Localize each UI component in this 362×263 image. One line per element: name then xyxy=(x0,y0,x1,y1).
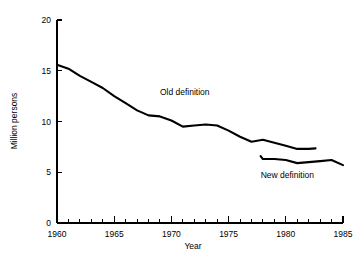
x-axis-tick-label: 1980 xyxy=(276,229,295,239)
y-axis-tick-label: 0 xyxy=(46,218,51,228)
x-axis-tick-label: 1975 xyxy=(219,229,238,239)
x-axis-title: Year xyxy=(184,241,201,251)
x-axis-tick-label: 1970 xyxy=(162,229,181,239)
y-axis-ticks xyxy=(57,20,62,223)
series-annotations-group: Old definitionNew definition xyxy=(160,87,314,180)
y-axis-tick-label: 10 xyxy=(42,117,52,127)
series-annotation-new-definition: New definition xyxy=(261,170,315,180)
axes-group xyxy=(57,20,343,223)
series-annotation-old-definition: Old definition xyxy=(160,87,210,97)
y-axis-tick-label: 20 xyxy=(42,15,52,25)
y-axis-tick-label: 15 xyxy=(42,66,52,76)
x-axis-tick-labels: 196019651970197519801985 xyxy=(48,229,353,239)
chart-container: 05101520 196019651970197519801985 Old de… xyxy=(0,0,362,263)
y-axis-title: Million persons xyxy=(9,93,19,150)
series-line-old-definition xyxy=(57,65,316,149)
x-axis-tick-label: 1960 xyxy=(48,229,67,239)
y-axis-tick-labels: 05101520 xyxy=(42,15,52,228)
x-axis-tick-label: 1965 xyxy=(105,229,124,239)
data-series-group xyxy=(57,65,343,165)
series-line-new-definition xyxy=(261,156,343,165)
x-axis-tick-label: 1985 xyxy=(334,229,353,239)
line-chart: 05101520 196019651970197519801985 Old de… xyxy=(0,0,362,263)
y-axis-tick-label: 5 xyxy=(46,167,51,177)
x-axis-ticks xyxy=(57,216,343,223)
